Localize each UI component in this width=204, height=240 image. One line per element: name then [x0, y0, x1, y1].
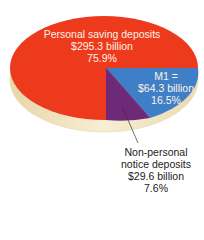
label-personal-name: Personal saving deposits	[0, 28, 204, 40]
label-m1: M1 = $64.3 billion 16.5%	[128, 70, 204, 106]
label-nonpersonal-value: $29.6 billion	[108, 170, 204, 182]
label-nonpersonal-name2: notice deposits	[108, 158, 204, 170]
label-nonpersonal-name1: Non-personal	[108, 146, 204, 158]
label-m1-percent: 16.5%	[128, 94, 204, 106]
label-personal-saving: Personal saving deposits $295.3 billion …	[0, 28, 204, 64]
label-personal-percent: 75.9%	[0, 52, 204, 64]
label-personal-value: $295.3 billion	[0, 40, 204, 52]
label-m1-name: M1 =	[128, 70, 204, 82]
label-nonpersonal-percent: 7.6%	[108, 182, 204, 194]
label-nonpersonal: Non-personal notice deposits $29.6 billi…	[108, 146, 204, 194]
label-m1-value: $64.3 billion	[128, 82, 204, 94]
